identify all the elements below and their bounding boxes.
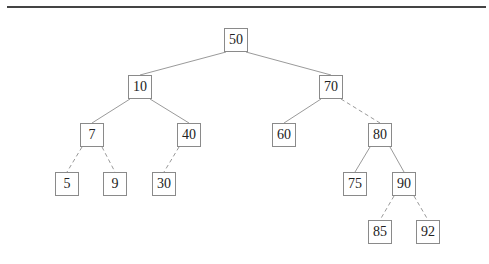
edge-n70-n80-dashed (341, 99, 380, 123)
node-label: 70 (324, 80, 338, 94)
edge-n70-n60-solid (284, 99, 321, 123)
edge-n90-n85-dashed (380, 196, 394, 220)
tree-node-80: 80 (368, 123, 392, 147)
edge-n10-n40-solid (150, 99, 189, 123)
tree-node-50: 50 (224, 28, 248, 52)
tree-node-70: 70 (319, 75, 343, 99)
edge-n10-n7-solid (92, 99, 130, 123)
edge-n80-n90-solid (390, 147, 404, 172)
node-label: 50 (229, 33, 243, 47)
tree-node-30: 30 (152, 172, 176, 196)
node-label: 92 (421, 225, 435, 239)
node-label: 5 (64, 177, 71, 191)
tree-node-85: 85 (368, 220, 392, 244)
edge-n50-n10-solid (140, 52, 226, 75)
node-label: 9 (112, 177, 119, 191)
tree-node-9: 9 (103, 172, 127, 196)
tree-node-5: 5 (55, 172, 79, 196)
node-label: 85 (373, 225, 387, 239)
node-label: 30 (157, 177, 171, 191)
edge-n40-n30-dashed (164, 147, 179, 172)
tree-node-7: 7 (80, 123, 104, 147)
node-label: 80 (373, 128, 387, 142)
tree-node-40: 40 (177, 123, 201, 147)
edge-n7-n5-dashed (67, 147, 82, 172)
node-label: 7 (89, 128, 96, 142)
edge-n7-n9-dashed (102, 147, 115, 172)
edge-n80-n75-solid (355, 147, 370, 172)
node-label: 10 (133, 80, 147, 94)
tree-node-75: 75 (343, 172, 367, 196)
tree-node-90: 90 (392, 172, 416, 196)
edge-n50-n70-solid (246, 52, 331, 75)
node-label: 40 (182, 128, 196, 142)
node-label: 60 (277, 128, 291, 142)
node-label: 75 (348, 177, 362, 191)
node-label: 90 (397, 177, 411, 191)
tree-node-60: 60 (272, 123, 296, 147)
edge-n90-n92-dashed (414, 196, 428, 220)
tree-node-10: 10 (128, 75, 152, 99)
tree-node-92: 92 (416, 220, 440, 244)
